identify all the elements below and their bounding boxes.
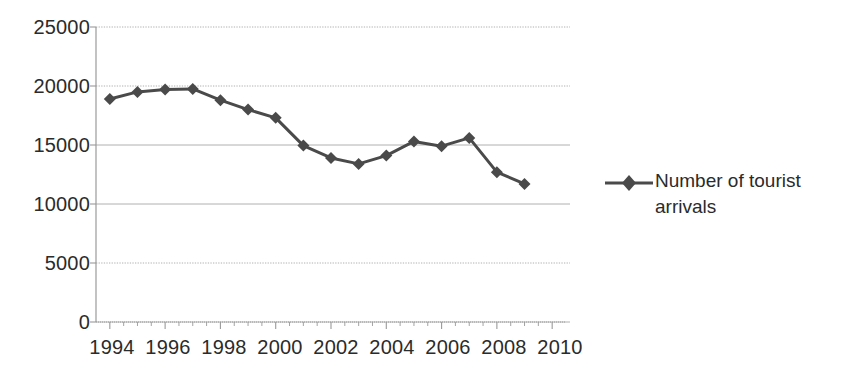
data-point-marker (408, 135, 420, 147)
legend-label: Number of tourist arrivals (655, 168, 843, 220)
x-axis-ticks (90, 27, 552, 329)
data-point-marker (214, 94, 226, 106)
data-point-marker (353, 158, 365, 170)
series-polyline (110, 89, 525, 184)
data-point-marker (131, 86, 143, 98)
data-point-marker (436, 140, 448, 152)
legend-diamond-marker-icon (603, 168, 655, 194)
line-chart: 25000 20000 15000 10000 5000 0 1994 1996… (0, 0, 847, 381)
data-point-marker (519, 178, 531, 190)
data-point-marker (159, 84, 171, 96)
legend-entry: Number of tourist arrivals (603, 168, 843, 220)
data-point-marker (187, 83, 199, 95)
data-point-marker (325, 152, 337, 164)
data-point-marker (380, 150, 392, 162)
series-line (110, 89, 525, 184)
data-point-marker (242, 104, 254, 116)
data-point-marker (104, 93, 116, 105)
chart-legend: Number of tourist arrivals (603, 168, 843, 220)
series-markers (104, 83, 531, 190)
